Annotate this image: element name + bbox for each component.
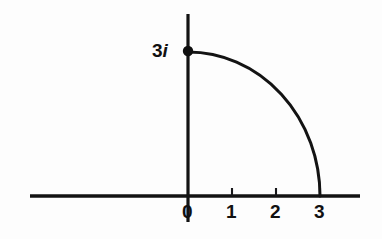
figure-canvas: 3i 0 1 2 3 — [0, 0, 382, 239]
imaginary-axis-label-3i: 3i — [152, 41, 168, 60]
quarter-circle-arc — [188, 52, 320, 196]
x-axis-tick-label-3: 3 — [314, 202, 325, 221]
x-axis-tick-label-1: 1 — [226, 202, 237, 221]
imaginary-label-number: 3 — [152, 40, 163, 61]
x-axis-tick-label-2: 2 — [270, 202, 281, 221]
point-marker-3i — [183, 46, 193, 56]
imaginary-unit-glyph: i — [163, 40, 168, 61]
x-axis-tick-label-0: 0 — [182, 202, 193, 221]
